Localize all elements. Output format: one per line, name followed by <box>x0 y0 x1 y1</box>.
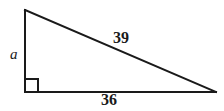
hypotenuse-label: 39 <box>113 30 129 46</box>
horizontal-leg-label: 36 <box>101 92 117 108</box>
right-triangle-figure: a 39 36 <box>0 0 224 111</box>
vertical-leg-label: a <box>10 47 18 62</box>
right-angle-marker-icon <box>25 79 38 92</box>
hypotenuse-line <box>25 10 216 92</box>
